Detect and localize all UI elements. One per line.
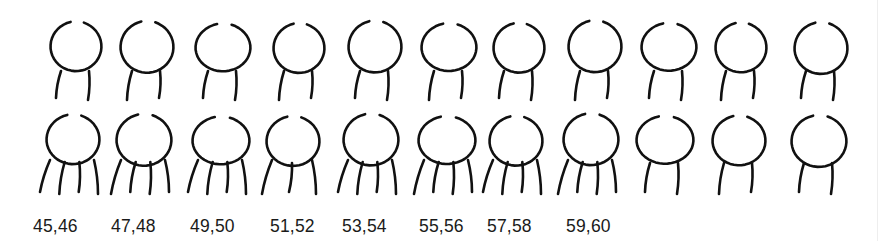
tadpole-head [47, 115, 100, 164]
tadpole-leg [799, 163, 804, 192]
tadpole-leg [130, 162, 135, 192]
tadpole-leg [94, 160, 98, 194]
tadpole-leg [483, 160, 493, 192]
tadpole-head [117, 115, 172, 166]
tadpole-leg [159, 71, 161, 98]
tadpole-leg [502, 162, 507, 194]
tadpole-leg [88, 71, 90, 100]
tadpole-figure [494, 23, 545, 100]
tadpole-figure [349, 21, 402, 100]
tadpole-leg [751, 163, 753, 192]
tadpole-head [795, 23, 848, 74]
figure-label: 51,52 [270, 216, 315, 237]
tadpole-leg [719, 163, 724, 194]
tadpole-leg [165, 160, 169, 192]
tadpole-head [564, 114, 619, 165]
tadpole-leg [357, 162, 362, 194]
tadpole-leg [607, 71, 609, 98]
tadpole-leg [227, 162, 228, 192]
tadpole-leg [597, 162, 598, 194]
tadpole-head [349, 21, 402, 72]
tadpole-leg [338, 160, 348, 192]
tadpole-leg [531, 71, 533, 100]
tadpole-leg [649, 71, 654, 98]
tadpole-leg [681, 71, 683, 100]
tadpole-leg [831, 163, 833, 194]
tadpole-head [51, 22, 102, 71]
tadpole-figure [40, 115, 99, 194]
tadpole-leg [242, 160, 246, 194]
tadpole-figure [338, 114, 398, 194]
figure-label: 57,58 [487, 216, 532, 237]
tadpole-leg [677, 163, 679, 194]
tadpole-head [196, 24, 251, 71]
tadpole-leg [79, 162, 80, 192]
tadpole-leg [414, 160, 424, 194]
tadpole-figure [262, 117, 319, 194]
tadpole-head [569, 21, 622, 72]
tadpole-figure [716, 23, 767, 100]
figure-label: 59,60 [566, 216, 611, 237]
tadpole-figure [196, 24, 251, 100]
tadpole-figure [642, 23, 697, 100]
tadpole-leg [377, 162, 378, 192]
tadpole-leg [429, 71, 434, 100]
tadpole-leg [468, 160, 472, 192]
tadpole-drawings [0, 0, 880, 241]
tadpole-leg [311, 71, 313, 98]
top-row [51, 21, 848, 100]
tadpole-figure [111, 115, 171, 195]
tadpole-head [792, 116, 847, 167]
tadpole-figure [637, 116, 694, 194]
tadpole-head [274, 24, 325, 73]
tadpole-figure [274, 24, 325, 100]
figure-label: 47,48 [111, 216, 156, 237]
tadpole-leg [612, 160, 616, 192]
tadpole-leg [262, 160, 272, 194]
page-edge-divider [877, 0, 878, 241]
tadpole-leg [453, 162, 454, 194]
figure-label: 49,50 [190, 216, 235, 237]
tadpole-leg [127, 71, 132, 100]
tadpole-leg [721, 71, 726, 100]
tadpole-figure [414, 117, 475, 194]
tadpole-leg [753, 71, 755, 98]
tadpole-figure [51, 22, 102, 100]
tadpole-leg [279, 71, 284, 100]
tadpole-head [494, 23, 545, 72]
tadpole-figure [792, 116, 847, 194]
tadpole-leg [537, 160, 541, 194]
tadpole-figure [558, 114, 618, 194]
tadpole-head [419, 117, 476, 164]
tadpole-leg [312, 160, 316, 194]
tadpole-leg [645, 163, 650, 192]
tadpole-figure [713, 116, 766, 194]
tadpole-leg [235, 71, 237, 100]
tadpole-head [344, 114, 399, 165]
tadpole-leg [150, 162, 151, 194]
tadpole-leg [56, 71, 61, 98]
tadpole-leg [40, 160, 50, 192]
tadpole-leg [111, 160, 121, 194]
tadpole-head [637, 116, 694, 163]
tadpole-head [716, 23, 767, 72]
tadpole-figure [121, 22, 174, 101]
tadpole-leg [558, 160, 568, 194]
tadpole-leg [392, 160, 396, 194]
tadpole-head [490, 116, 543, 165]
tadpole-figure [795, 23, 848, 100]
tadpole-leg [801, 71, 806, 98]
figure-canvas: 45,46 47,48 49,50 51,52 53,54 55,56 57,5… [0, 0, 880, 241]
tadpole-leg [499, 71, 504, 98]
tadpole-figure [422, 24, 477, 100]
figure-label: 45,46 [33, 216, 78, 237]
tadpole-leg [188, 160, 198, 192]
tadpole-head [267, 117, 320, 166]
tadpole-leg [59, 162, 64, 194]
tadpole-leg [577, 162, 582, 192]
tadpole-leg [461, 71, 463, 98]
tadpole-head [422, 24, 477, 71]
figure-label: 55,56 [419, 216, 464, 237]
tadpole-head [193, 117, 250, 164]
tadpole-leg [355, 71, 360, 98]
